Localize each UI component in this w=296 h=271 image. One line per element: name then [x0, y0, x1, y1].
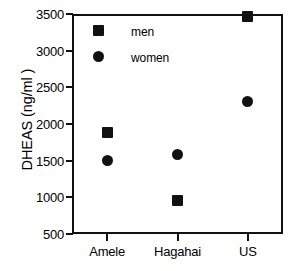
y-axis-label: DHEAS (ng/ml ): [20, 30, 35, 210]
x-axis-tick: [177, 234, 179, 241]
x-axis-tick: [106, 234, 108, 241]
y-tick-label: 2500: [36, 81, 64, 94]
x-axis-tick: [247, 234, 249, 241]
legend-label-women: women: [131, 52, 169, 64]
x-tick-label-us: US: [203, 245, 293, 259]
data-point-men-hagahai: [172, 195, 183, 206]
y-tick-label: 1000: [36, 191, 64, 204]
y-tick-label: 2000: [36, 118, 64, 131]
y-tick-label: 3000: [36, 45, 64, 58]
data-point-men-amele: [102, 127, 113, 138]
legend-marker-men: [93, 25, 104, 36]
legend-marker-women: [93, 51, 104, 62]
chart-figure: DHEAS (ng/ml ) 3500 3000 2500 2000 1500 …: [0, 0, 296, 271]
data-point-men-us: [242, 11, 253, 22]
y-tick-label: 500: [43, 228, 64, 241]
y-tick-label: 3500: [36, 8, 64, 21]
data-point-women-amele: [102, 155, 113, 166]
y-tick-label: 1500: [36, 155, 64, 168]
legend-label-men: men: [131, 26, 154, 38]
